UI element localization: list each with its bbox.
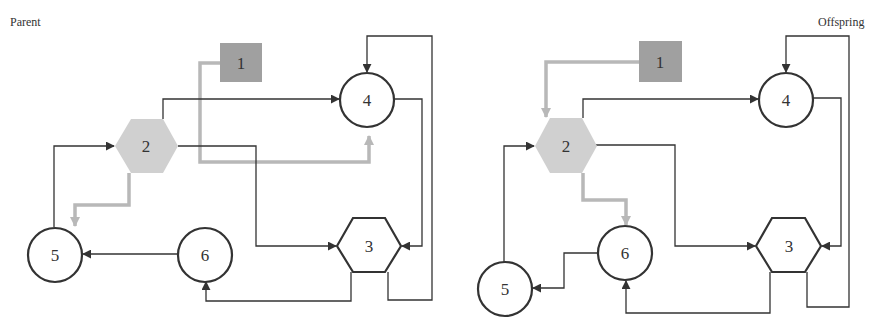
edge-1-to-2 [546, 62, 639, 117]
node-label: 6 [621, 244, 630, 263]
node-label: 2 [142, 137, 151, 156]
node-label: 1 [656, 53, 665, 72]
node-5[interactable]: 5 [28, 228, 82, 282]
parent-title: Parent [10, 15, 41, 29]
node-2[interactable]: 2 [115, 119, 178, 173]
node-4[interactable]: 4 [759, 73, 813, 127]
edge-6-to-5 [533, 253, 598, 288]
node-4[interactable]: 4 [340, 73, 394, 127]
node-3[interactable]: 3 [337, 218, 401, 272]
node-5[interactable]: 5 [478, 262, 532, 316]
node-6[interactable]: 6 [178, 228, 232, 282]
node-6[interactable]: 6 [598, 226, 652, 280]
offspring-diagram: Offspring 1 2 3 4 5 [478, 15, 864, 316]
edge-5-to-2 [54, 146, 114, 227]
diagram-canvas: Parent 1 2 3 4 5 [0, 0, 878, 328]
edge-3-to-6 [206, 272, 351, 301]
edge-4-to-3 [813, 98, 841, 246]
node-label: 6 [201, 246, 210, 265]
offspring-title: Offspring [818, 15, 864, 29]
parent-diagram: Parent 1 2 3 4 5 [10, 15, 432, 301]
node-3[interactable]: 3 [756, 218, 821, 272]
edge-5-to-2 [504, 146, 534, 262]
node-label: 3 [365, 237, 374, 256]
edge-2-to-6 [583, 173, 626, 225]
edge-3-to-6 [626, 272, 770, 313]
node-label: 5 [501, 280, 510, 299]
node-label: 4 [363, 91, 372, 110]
node-label: 3 [785, 237, 794, 256]
node-label: 5 [51, 246, 60, 265]
edge-2-to-5 [75, 173, 129, 226]
node-label: 2 [562, 137, 571, 156]
edge-4-to-3 [394, 99, 422, 246]
node-1[interactable]: 1 [639, 41, 682, 82]
node-label: 1 [237, 54, 246, 73]
node-1[interactable]: 1 [220, 43, 262, 82]
node-2[interactable]: 2 [535, 118, 597, 173]
edge-2-to-4 [163, 99, 339, 119]
node-label: 4 [782, 91, 791, 110]
edge-2-to-4 [583, 99, 758, 118]
